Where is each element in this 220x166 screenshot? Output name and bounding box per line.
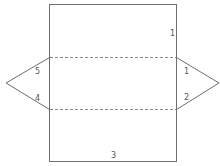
label-right-triangle-upper: 1	[184, 67, 189, 76]
right-triangle-face	[177, 58, 220, 110]
left-triangle-face	[6, 58, 50, 110]
label-left-triangle-lower: 4	[35, 94, 40, 103]
prism-net-diagram: 1 5 4 1 2 3	[0, 0, 220, 166]
label-rect-top-right: 1	[170, 29, 175, 38]
label-rect-bottom: 3	[111, 151, 116, 160]
label-right-triangle-lower: 2	[184, 93, 189, 102]
net-rectangle	[50, 5, 177, 162]
label-left-triangle-upper: 5	[35, 67, 40, 76]
